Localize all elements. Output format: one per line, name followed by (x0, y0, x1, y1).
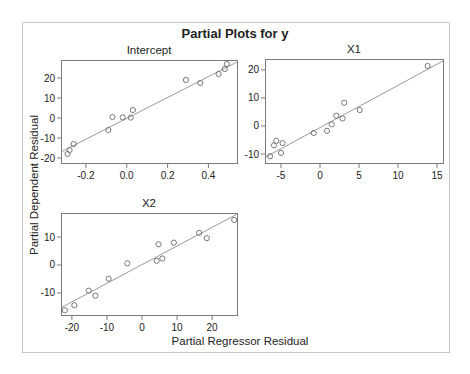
x-axis-label: Partial Regressor Residual (172, 335, 309, 347)
x-tick-label: 10 (171, 322, 183, 333)
panel-title: X2 (142, 197, 156, 209)
x-tick-label: -20 (65, 322, 80, 333)
x-tick-label: -10 (100, 322, 115, 333)
y-tick-label: 0 (49, 113, 55, 124)
y-tick-label: 0 (49, 259, 55, 270)
y-tick-label: 10 (248, 92, 260, 103)
x-tick-label: 0.2 (161, 170, 175, 181)
x-tick-label: 0.4 (201, 170, 215, 181)
y-tick-label: -10 (41, 287, 56, 298)
y-tick-label: -10 (245, 149, 260, 160)
x-tick-label: 15 (431, 170, 443, 181)
x-tick-label: -0.2 (77, 170, 95, 181)
y-tick-label: 10 (44, 93, 56, 104)
y-tick-label: -20 (41, 153, 56, 164)
y-tick-label: 0 (253, 120, 259, 131)
panel-title: X1 (347, 43, 361, 55)
y-tick-label: 10 (44, 232, 56, 243)
y-axis-label: Partial Dependent Residual (28, 115, 40, 255)
outer-frame (23, 23, 450, 353)
panel-title: Intercept (127, 44, 173, 56)
x-tick-label: 10 (392, 170, 404, 181)
x-tick-label: 5 (356, 170, 362, 181)
partial-plots-chart: Partial Plots for y Partial Dependent Re… (0, 0, 470, 374)
x-tick-label: 0 (317, 170, 323, 181)
x-tick-label: 0 (139, 322, 145, 333)
x-tick-label: 20 (207, 322, 219, 333)
y-tick-label: 20 (44, 73, 56, 84)
x-tick-label: 0.0 (120, 170, 134, 181)
y-tick-label: 20 (248, 64, 260, 75)
x-tick-label: -5 (277, 170, 286, 181)
y-tick-label: -10 (41, 133, 56, 144)
chart-title: Partial Plots for y (182, 26, 290, 41)
